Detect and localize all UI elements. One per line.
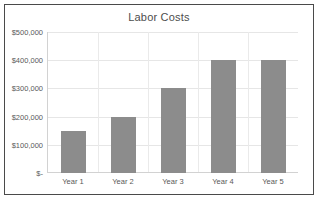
bar[interactable]: [161, 88, 186, 173]
y-axis-tick-label: $300,000: [12, 84, 43, 93]
chart-frame: Labor Costs $-$100,000$200,000$300,000$4…: [4, 4, 314, 195]
x-axis-tick-label: Year 4: [198, 177, 248, 186]
bar[interactable]: [111, 117, 136, 173]
y-axis-labels: $-$100,000$200,000$300,000$400,000$500,0…: [5, 32, 43, 173]
bar-slot: [48, 32, 98, 173]
y-axis-tick-label: $100,000: [12, 140, 43, 149]
bar-slot: [98, 32, 148, 173]
x-axis-labels: Year 1Year 2Year 3Year 4Year 5: [48, 177, 298, 186]
y-axis-tick-label: $500,000: [12, 28, 43, 37]
y-axis-tick-label: $400,000: [12, 56, 43, 65]
bar-series: [48, 32, 298, 173]
bar[interactable]: [211, 60, 236, 173]
chart-title: Labor Costs: [5, 11, 313, 23]
x-axis-tick-label: Year 5: [248, 177, 298, 186]
x-axis-tick-label: Year 1: [48, 177, 98, 186]
bar[interactable]: [261, 60, 286, 173]
bar-slot: [148, 32, 198, 173]
y-axis-tick-label: $200,000: [12, 112, 43, 121]
y-axis-tick-label: $-: [36, 169, 43, 178]
x-axis-tick-label: Year 2: [98, 177, 148, 186]
bar[interactable]: [61, 131, 86, 173]
bar-slot: [198, 32, 248, 173]
bar-slot: [248, 32, 298, 173]
x-axis-tick-label: Year 3: [148, 177, 198, 186]
